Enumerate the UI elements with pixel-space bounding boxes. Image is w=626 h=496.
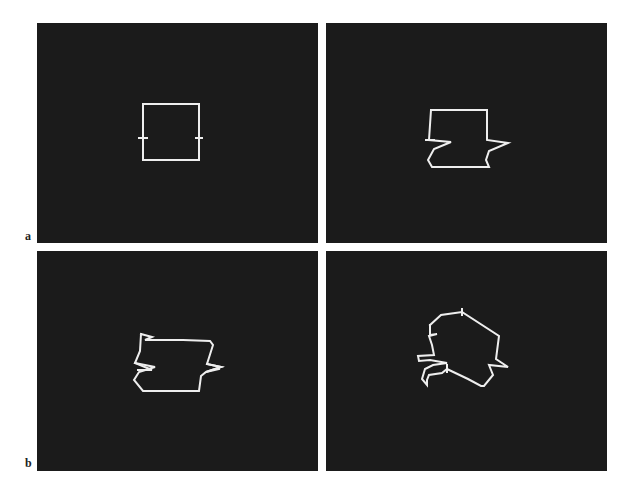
- panel-a-left: [37, 23, 318, 243]
- deformed-square-figure: [326, 23, 607, 243]
- rotated-distorted-outline-figure: [326, 251, 607, 471]
- zigzag-outline-figure: [37, 251, 318, 471]
- panel-a-right: [326, 23, 607, 243]
- panel-b-right: [326, 251, 607, 471]
- row-label-b: b: [25, 456, 32, 471]
- panel-b-left: [37, 251, 318, 471]
- row-label-a: a: [25, 229, 31, 244]
- square-outline-figure: [37, 23, 318, 243]
